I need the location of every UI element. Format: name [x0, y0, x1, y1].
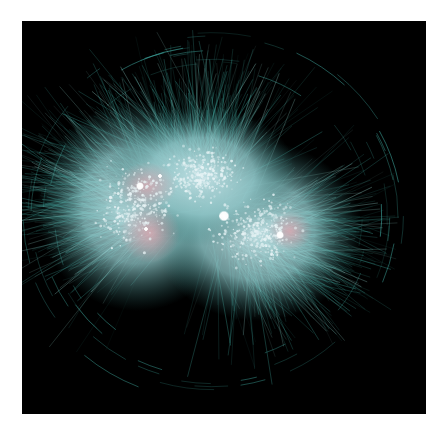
hub-node	[276, 231, 284, 239]
hub-node	[158, 174, 162, 178]
hub-node	[219, 211, 230, 222]
node-cloud	[37, 101, 362, 321]
network-graph	[22, 21, 426, 414]
hub-node	[136, 182, 144, 190]
hub-node	[144, 227, 148, 231]
network-graph-panel	[22, 21, 426, 414]
